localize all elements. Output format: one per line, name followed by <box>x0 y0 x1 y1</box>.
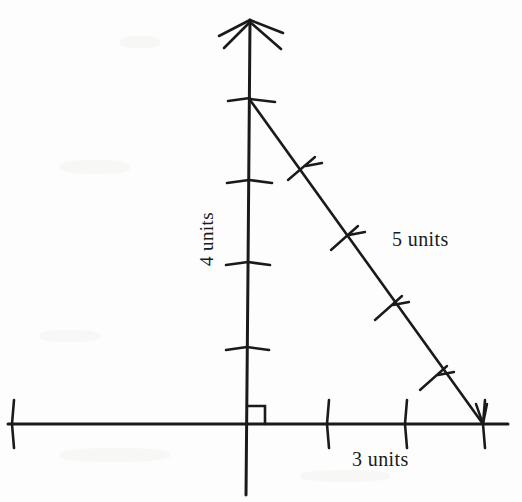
horizontal-leg-label: 3 units <box>352 448 409 471</box>
triangle-figure <box>0 0 522 502</box>
diagram-canvas: 4 units 5 units 3 units <box>0 0 522 502</box>
hypotenuse-line <box>250 100 483 424</box>
hypotenuse-label: 5 units <box>392 228 449 251</box>
right-angle-marker-icon <box>247 406 265 424</box>
vertical-leg-label: 4 units <box>196 212 218 266</box>
